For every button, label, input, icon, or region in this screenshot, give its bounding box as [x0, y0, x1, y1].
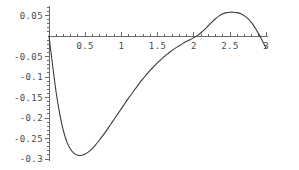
plot-canvas — [0, 0, 299, 170]
y-tick-label: -0.25 — [14, 134, 43, 143]
x-tick-label: 2.5 — [221, 42, 238, 51]
y-tick-label: -0.15 — [14, 93, 43, 102]
y-tick-label: -0.05 — [14, 52, 43, 61]
y-tick-label: -0.2 — [20, 114, 43, 123]
x-tick-label: 1.5 — [149, 42, 166, 51]
axes-group — [48, 6, 268, 161]
x-tick-label: 2 — [191, 42, 197, 51]
x-tick-label: 0.5 — [76, 42, 93, 51]
y-tick-label: -0.3 — [20, 155, 43, 164]
x-tick-label: 3 — [263, 42, 269, 51]
ticks-group — [45, 7, 266, 159]
y-tick-label: 0.05 — [20, 11, 43, 20]
plot-figure: 0.511.522.53 0.05-0.05-0.1-0.15-0.2-0.25… — [0, 0, 299, 170]
y-tick-label: -0.1 — [20, 73, 43, 82]
x-tick-label: 1 — [118, 42, 124, 51]
